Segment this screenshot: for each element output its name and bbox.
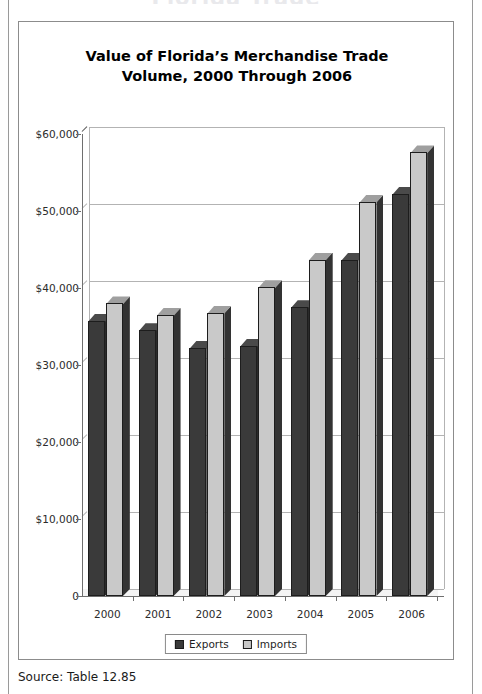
bar-exports-2000 (88, 314, 105, 596)
bar-imports-2002 (207, 306, 224, 596)
page-left-rule (8, 0, 9, 694)
bar-exports-2001 (139, 323, 156, 596)
bar-exports-2002 (189, 341, 206, 596)
bar-front-face (240, 346, 257, 596)
bar-front-face (88, 321, 105, 596)
y-axis-tick (76, 288, 81, 289)
chart-legend: ExportsImports (165, 634, 307, 654)
bar-imports-2005 (359, 195, 376, 596)
bar-front-face (157, 315, 174, 596)
legend-item-imports: Imports (243, 638, 297, 650)
bar-front-face (392, 194, 409, 596)
legend-item-exports: Exports (175, 638, 229, 650)
bar-front-face (291, 307, 308, 596)
bar-side-face (224, 306, 231, 596)
bar-front-face (207, 313, 224, 596)
x-axis-origin-tick (76, 596, 82, 597)
running-head: Florida Trade (18, 0, 454, 4)
bar-front-face (189, 348, 206, 596)
legend-swatch-imports-icon (243, 640, 252, 649)
source-note: Source: Table 12.85 (18, 670, 136, 684)
x-axis-tick-label: 2006 (382, 608, 442, 620)
bar-side-face (326, 253, 333, 596)
x-axis-tick (437, 596, 438, 601)
legend-label: Imports (257, 638, 297, 650)
bar-imports-2006 (410, 145, 427, 596)
y-axis-tick (76, 211, 81, 212)
bar-front-face (258, 287, 275, 596)
bar-front-face (309, 260, 326, 596)
x-axis-tick (183, 596, 184, 601)
x-axis-tick (336, 596, 337, 601)
bar-side-face (174, 308, 181, 596)
page-right-rule (472, 0, 473, 694)
bar-exports-2005 (341, 253, 358, 596)
bar-front-face (341, 260, 358, 596)
bar-front-face (106, 303, 123, 596)
bar-exports-2003 (240, 339, 257, 596)
y-axis-tick (76, 519, 81, 520)
bar-side-face (427, 145, 434, 596)
y-axis-tick (76, 442, 81, 443)
bar-front-face (410, 152, 427, 596)
bar-exports-2006 (392, 187, 409, 596)
bar-front-face (359, 202, 376, 596)
y-axis-tick (76, 134, 81, 135)
x-axis-tick (133, 596, 134, 601)
bar-exports-2004 (291, 300, 308, 596)
bar-imports-2000 (106, 296, 123, 596)
legend-swatch-exports-icon (175, 640, 184, 649)
bar-side-face (275, 280, 282, 596)
gridline-group (19, 22, 455, 661)
plot-top-back-line (89, 127, 444, 128)
x-axis-tick (234, 596, 235, 601)
chart-plot-area: 0$10,000$20,000$30,000$40,000$50,000$60,… (19, 22, 455, 661)
plot-right-back-line (444, 127, 445, 589)
bar-imports-2004 (309, 253, 326, 596)
bar-side-face (123, 296, 130, 596)
gridline (89, 204, 444, 205)
x-axis-tick (285, 596, 286, 601)
x-axis-tick (386, 596, 387, 601)
figure-panel: Value of Florida’s Merchandise Trade Vol… (18, 21, 454, 660)
bar-imports-2001 (157, 308, 174, 596)
bar-side-face (376, 195, 383, 596)
y-axis-line (82, 134, 83, 596)
legend-label: Exports (189, 638, 229, 650)
bar-imports-2003 (258, 280, 275, 596)
bar-front-face (139, 330, 156, 596)
y-axis-tick (76, 365, 81, 366)
x-axis-line (82, 596, 444, 597)
